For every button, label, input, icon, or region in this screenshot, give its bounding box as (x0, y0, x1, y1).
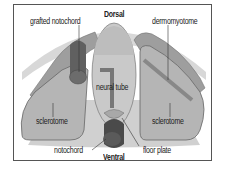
ventral-label: Ventral (103, 152, 125, 162)
dermomyotome-label: dermomyotome (152, 16, 197, 26)
dorsal-label: Dorsal (104, 9, 124, 19)
notochord-label: notochord (54, 145, 83, 155)
neural-tube-label: neural tube (96, 82, 128, 92)
grafted-notochord-label: grafted notochord (30, 16, 80, 26)
sclerotome-left-label: sclerotome (36, 116, 68, 126)
floor-plate-label: floor plate (143, 145, 171, 155)
neural-tube-upper (94, 26, 134, 55)
sclerotome-right-label: sclerotome (152, 116, 184, 126)
grafted-notochord-end (70, 70, 87, 84)
